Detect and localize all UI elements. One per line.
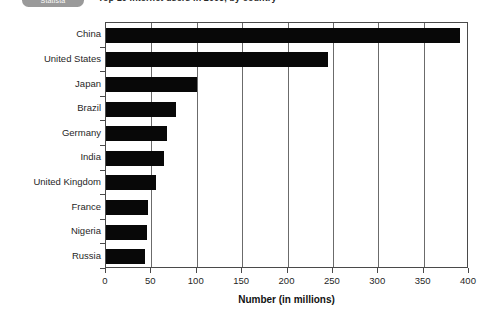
x-axis-tick-label: 200 (279, 275, 295, 286)
x-axis-tick-label: 100 (188, 275, 204, 286)
bar (106, 28, 460, 43)
category-axis-label: China (0, 28, 101, 39)
bar (106, 77, 197, 92)
category-axis-tick (100, 243, 105, 244)
bar (106, 151, 164, 166)
bar-chart: ChinaUnited StatesJapanBrazilGermanyIndi… (0, 12, 490, 319)
plot-area (105, 22, 468, 268)
category-axis-label: United Kingdom (0, 176, 101, 187)
bar-row (106, 175, 467, 190)
source-badge-label: Statista (22, 0, 84, 7)
bar (106, 200, 148, 215)
chart-title: Top 10 internet users in 2009, by countr… (98, 0, 276, 3)
category-axis-tick (100, 145, 105, 146)
x-axis-tick-label: 300 (369, 275, 385, 286)
category-axis-label: Germany (0, 127, 101, 138)
x-axis-tick-label: 350 (415, 275, 431, 286)
bar-row (106, 200, 467, 215)
category-axis-label: United States (0, 53, 101, 64)
bar (106, 249, 145, 264)
x-axis-tick-label: 0 (102, 275, 107, 286)
x-axis-tick (423, 268, 424, 273)
category-axis-tick (100, 71, 105, 72)
category-axis-label: France (0, 201, 101, 212)
x-axis-tick (241, 268, 242, 273)
chart-header: Statista Top 10 internet users in 2009, … (0, 0, 490, 12)
bar (106, 126, 167, 141)
category-axis-label: Japan (0, 78, 101, 89)
bar-row (106, 28, 467, 43)
x-axis-tick (196, 268, 197, 273)
x-axis-title: Number (in millions) (105, 294, 468, 305)
bar-row (106, 126, 467, 141)
bar-series (106, 23, 467, 267)
bar (106, 102, 176, 117)
bar-row (106, 52, 467, 67)
category-axis-label: India (0, 151, 101, 162)
category-axis-tick (100, 47, 105, 48)
x-axis-tick-label: 150 (233, 275, 249, 286)
x-axis-tick (105, 268, 106, 273)
category-axis-tick (100, 96, 105, 97)
category-axis-tick (100, 194, 105, 195)
bar-row (106, 249, 467, 264)
x-axis-tick-label: 50 (145, 275, 156, 286)
x-axis-tick (150, 268, 151, 273)
category-axis-tick (100, 120, 105, 121)
x-axis-tick-label: 400 (460, 275, 476, 286)
x-axis-tick (377, 268, 378, 273)
x-axis-tick (287, 268, 288, 273)
x-axis-tick-label: 250 (324, 275, 340, 286)
bar-row (106, 77, 467, 92)
category-axis-label: Brazil (0, 102, 101, 113)
x-axis-tick (332, 268, 333, 273)
bar (106, 175, 156, 190)
bar (106, 52, 328, 67)
bar-row (106, 102, 467, 117)
source-badge: Statista (22, 0, 84, 7)
x-axis-tick (468, 268, 469, 273)
category-axis-tick (100, 268, 105, 269)
category-axis-tick (100, 170, 105, 171)
bar-row (106, 151, 467, 166)
bar (106, 225, 147, 240)
category-axis-labels: ChinaUnited StatesJapanBrazilGermanyIndi… (0, 22, 101, 268)
category-axis-label: Nigeria (0, 225, 101, 236)
bar-row (106, 225, 467, 240)
category-axis-tick (100, 219, 105, 220)
category-axis-label: Russia (0, 250, 101, 261)
